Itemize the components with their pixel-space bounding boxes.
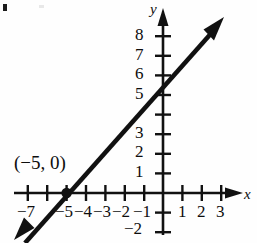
- y-axis-label: y: [150, 1, 157, 18]
- y-tick-label-2: 2: [135, 143, 144, 160]
- y-tick-label-7: 7: [135, 46, 144, 63]
- y-tick-label-3: 3: [135, 124, 144, 141]
- y-tick-label-minus2: −2: [124, 220, 142, 237]
- y-tick-label-8: 8: [135, 26, 144, 43]
- point-annotation-minus5-0: (−5, 0): [14, 152, 66, 174]
- y-axis: [158, 8, 169, 235]
- x-tick-label-1: 1: [178, 203, 187, 220]
- x-tick-label-minus2: −2: [112, 203, 130, 220]
- x-tick-label-minus3: −3: [93, 203, 111, 220]
- y-tick-label-1: 1: [135, 163, 144, 180]
- graph-figure: −7 −5 −4 −3 −2 −1 1 2 3 8 7 6 5 3 2 1 −2…: [0, 0, 257, 243]
- x-tick-label-minus1: −1: [133, 203, 151, 220]
- x-tick-label-minus5: −5: [55, 203, 73, 220]
- x-tick-label-2: 2: [197, 203, 206, 220]
- y-tick-label-5: 5: [135, 85, 144, 102]
- point-marker-minus5-0: [61, 188, 71, 198]
- x-tick-label-minus7: −7: [17, 203, 35, 220]
- x-axis-label: x: [244, 186, 251, 203]
- y-tick-label-6: 6: [135, 65, 144, 82]
- x-tick-label-minus4: −4: [74, 203, 92, 220]
- x-tick-label-3: 3: [216, 203, 225, 220]
